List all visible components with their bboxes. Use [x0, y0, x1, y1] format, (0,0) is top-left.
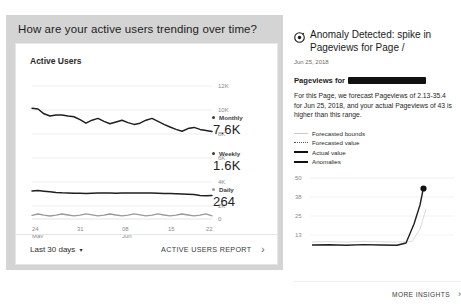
- legend-dot-icon: [212, 116, 215, 119]
- pageviews-url-line: Pageviews for: [294, 76, 461, 85]
- more-insights-link[interactable]: MORE INSIGHTS ›: [294, 281, 461, 299]
- anomaly-point: [420, 185, 426, 191]
- active-users-card: How are your active users trending over …: [6, 15, 283, 270]
- active-users-report-link[interactable]: ACTIVE USERS REPORT ›: [161, 244, 265, 255]
- date-range-label: Last 30 days: [30, 245, 75, 254]
- line-swatch-icon: [294, 151, 308, 153]
- svg-text:38: 38: [295, 194, 302, 200]
- report-link-label: ACTIVE USERS REPORT: [161, 245, 251, 254]
- chart-title: Active Users: [30, 56, 82, 66]
- legend-item-anomalies: Anomalies: [294, 158, 461, 165]
- card-header: How are your active users trending over …: [6, 15, 283, 43]
- legend-label: Anomalies: [312, 158, 341, 165]
- legend-item-monthly: Monthly 7.6K: [212, 114, 274, 137]
- date-range-selector[interactable]: Last 30 days ▾: [30, 245, 82, 254]
- gridlines: [32, 86, 212, 219]
- legend-item-actual-value: Actual value: [294, 149, 461, 156]
- more-insights-label: MORE INSIGHTS: [392, 291, 450, 298]
- redacted-url: [348, 77, 426, 84]
- legend-label: Forecasted bounds: [312, 130, 365, 137]
- legend-label: Actual value: [312, 149, 346, 156]
- svg-text:12K: 12K: [218, 83, 229, 89]
- insight-body-text: For this Page, we forecast Pageviews of …: [294, 91, 454, 120]
- legend-label: Daily: [219, 186, 234, 193]
- card-header-question: How are your active users trending over …: [18, 23, 257, 35]
- svg-text:22: 22: [206, 226, 213, 232]
- series-monthly: [32, 108, 212, 131]
- anomaly-icon: [294, 29, 305, 47]
- y-axis-labels: 50 38 25 13: [295, 175, 302, 238]
- series-actual-value: [312, 190, 423, 245]
- line-swatch-icon: [294, 133, 308, 134]
- svg-text:25: 25: [295, 213, 302, 219]
- chart-legend: Monthly 7.6K Weekly 1.6K Daily: [212, 114, 274, 222]
- svg-text:31: 31: [77, 226, 84, 232]
- legend-label: Weekly: [219, 150, 240, 157]
- pageviews-label: Pageviews for: [294, 76, 345, 85]
- chevron-right-icon: ›: [261, 244, 265, 255]
- series-weekly: [32, 191, 212, 196]
- svg-text:13: 13: [295, 232, 302, 238]
- legend-value: 1.6K: [213, 158, 274, 173]
- active-users-chart: 12K 10K 8K 6K 4K 2K 0 24 May: [22, 70, 273, 238]
- legend-item-daily: Daily 264: [212, 186, 274, 209]
- legend-value: 7.6K: [213, 122, 274, 137]
- insight-title: Anomaly Detected: spike in Pageviews for…: [310, 28, 452, 54]
- chevron-down-icon: ▾: [79, 246, 82, 253]
- legend-value: 264: [213, 194, 274, 209]
- insight-header: Anomaly Detected: spike in Pageviews for…: [294, 28, 461, 54]
- legend-dot-icon: [212, 188, 215, 191]
- anomaly-plot: 50 38 25 13: [294, 169, 461, 247]
- svg-text:50: 50: [295, 175, 302, 181]
- line-swatch-icon: [294, 161, 308, 163]
- legend-dot-icon: [212, 152, 215, 155]
- legend-item-weekly: Weekly 1.6K: [212, 150, 274, 173]
- insight-date: Jun 25, 2018: [294, 59, 461, 65]
- svg-text:10K: 10K: [218, 107, 229, 113]
- anomaly-chart: 50 38 25 13: [294, 169, 461, 247]
- legend-label: Forecasted value: [312, 139, 359, 146]
- card-body: Active Users 12K 10K 8K 6: [15, 43, 278, 265]
- anomaly-chart-legend: Forecasted bounds Forecasted value Actua…: [294, 130, 461, 166]
- legend-label: Monthly: [219, 114, 243, 121]
- legend-item-forecasted-value: Forecasted value: [294, 139, 461, 146]
- legend-item-forecasted-bounds: Forecasted bounds: [294, 130, 461, 137]
- card-footer: Last 30 days ▾ ACTIVE USERS REPORT ›: [16, 234, 277, 264]
- svg-text:15: 15: [168, 226, 175, 232]
- line-swatch-icon: [294, 142, 308, 143]
- series-daily: [32, 214, 212, 216]
- insight-panel: Anomaly Detected: spike in Pageviews for…: [294, 28, 461, 307]
- svg-text:24: 24: [32, 226, 39, 232]
- svg-text:08: 08: [122, 226, 129, 232]
- gridlines: [310, 178, 454, 235]
